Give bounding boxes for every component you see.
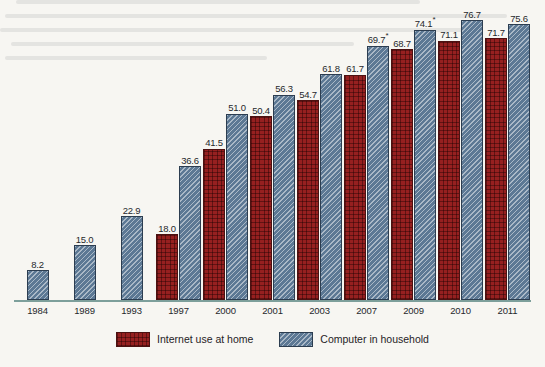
bar-value-label: 50.4 [252, 106, 270, 116]
x-tick-label-2009: 2009 [390, 304, 437, 318]
bar-group: 22.9 [108, 8, 155, 300]
bar-group: 61.769.7* [343, 8, 390, 300]
bar-internet-use-at-home: 54.7 [297, 100, 319, 300]
bar-value-label: 75.6 [510, 14, 528, 24]
bar-internet-use-at-home: 41.5 [203, 149, 225, 300]
bar-group: 71.176.7 [437, 8, 484, 300]
legend-entry: Computer in household [279, 332, 429, 347]
bar-group: 50.456.3 [249, 8, 296, 300]
bar-value-label: 18.0 [158, 224, 176, 234]
x-tick-label-2000: 2000 [202, 304, 249, 318]
x-tick-label-1997: 1997 [155, 304, 202, 318]
bar-internet-use-at-home: 71.1 [438, 41, 460, 301]
bar-value-label: 15.0 [76, 235, 94, 245]
bar-value-label: 22.9 [123, 206, 141, 216]
bar-computer-in-household: 56.3 [273, 95, 295, 300]
x-tick-label-1989: 1989 [61, 304, 108, 318]
bar-group: 8.2 [14, 8, 61, 300]
blue-hatch-swatch [279, 332, 313, 347]
bar-value-label: 61.8 [322, 64, 340, 74]
bar-internet-use-at-home: 68.7 [391, 49, 413, 300]
x-tick-label-1993: 1993 [108, 304, 155, 318]
legend-label: Computer in household [320, 334, 429, 345]
bar-value-label: 71.7 [487, 28, 505, 38]
bar-group: 68.774.1* [390, 8, 437, 300]
bar-computer-in-household: 69.7* [367, 46, 389, 300]
bar-value-label: 36.6 [181, 156, 199, 166]
bar-internet-use-at-home: 71.7 [485, 38, 507, 300]
bar-group: 15.0 [61, 8, 108, 300]
bar-value-label: 76.7 [463, 10, 481, 20]
x-tick-label-2007: 2007 [343, 304, 390, 318]
bar-computer-in-household: 61.8 [320, 74, 342, 300]
bar-internet-use-at-home: 61.7 [344, 75, 366, 300]
bar-internet-use-at-home: 18.0 [156, 234, 178, 300]
bar-group: 54.761.8 [296, 8, 343, 300]
bar-value-label: 71.1 [440, 30, 458, 40]
x-tick-label-1984: 1984 [14, 304, 61, 318]
bar-value-label: 69.7* [368, 35, 389, 45]
x-tick-label-2011: 2011 [484, 304, 531, 318]
bar-group: 41.551.0 [202, 8, 249, 300]
legend-entry: Internet use at home [116, 332, 253, 347]
bar-computer-in-household: 74.1* [414, 30, 436, 300]
x-tick-label-2003: 2003 [296, 304, 343, 318]
x-axis-tick-labels: 1984198919931997200020012003200720092010… [14, 304, 531, 322]
bar-value-label: 68.7 [393, 39, 411, 49]
bar-computer-in-household: 75.6 [508, 24, 530, 300]
x-tick-label-2010: 2010 [437, 304, 484, 318]
bar-value-label: 74.1* [415, 19, 436, 29]
bar-computer-in-household: 8.2 [27, 270, 49, 300]
grouped-bar-chart: 8.215.022.918.036.641.551.050.456.354.76… [0, 0, 545, 367]
bar-internet-use-at-home: 50.4 [250, 116, 272, 300]
bar-computer-in-household: 22.9 [121, 216, 143, 300]
x-tick-label-2001: 2001 [249, 304, 296, 318]
bar-computer-in-household: 36.6 [179, 166, 201, 300]
bar-computer-in-household: 76.7 [461, 20, 483, 300]
bar-group: 18.036.6 [155, 8, 202, 300]
bar-computer-in-household: 15.0 [74, 245, 96, 300]
bar-value-label: 61.7 [346, 64, 364, 74]
bar-value-label: 41.5 [205, 138, 223, 148]
bar-group: 71.775.6 [484, 8, 531, 300]
bar-value-label: 56.3 [275, 84, 293, 94]
legend-label: Internet use at home [157, 334, 253, 345]
bar-value-label: 8.2 [31, 260, 44, 270]
chart-legend: Internet use at homeComputer in househol… [0, 332, 545, 360]
plot-area: 8.215.022.918.036.641.551.050.456.354.76… [14, 8, 531, 300]
bar-value-label: 51.0 [228, 103, 246, 113]
red-crosshatch-swatch [116, 332, 150, 347]
bar-computer-in-household: 51.0 [226, 114, 248, 300]
bar-value-label: 54.7 [299, 90, 317, 100]
x-axis-line [14, 300, 531, 302]
